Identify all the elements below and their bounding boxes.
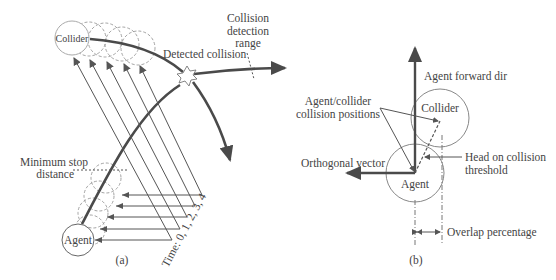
detection-range-marker	[247, 53, 254, 79]
collision-positions-label-1: Agent/collider	[305, 95, 372, 108]
panel-b-caption: (b)	[409, 254, 423, 267]
panel-a: Collider Agent	[20, 12, 285, 269]
agent-path	[82, 85, 180, 224]
agent-label-b: Agent	[401, 178, 430, 191]
agent-label: Agent	[64, 234, 93, 247]
detected-collision-label: Detected collision	[163, 48, 247, 60]
detection-range-label-3: range	[235, 37, 261, 50]
collider-label-b: Collider	[421, 102, 459, 114]
overlap-percentage-label: Overlap percentage	[447, 226, 537, 239]
minimum-stop-label-2: distance	[36, 168, 74, 180]
forward-dir-label: Agent forward dir	[424, 70, 507, 83]
detection-range-label-2: detection	[227, 25, 269, 37]
deflect-arrow-right	[194, 68, 285, 74]
collision-diagram: Collider Agent	[0, 0, 556, 280]
time-sample-lines	[74, 58, 202, 240]
panel-b: Collider Agent Agent forward dir Orthogo…	[296, 48, 546, 267]
collider-circle-b	[411, 89, 469, 147]
detection-range-label-1: Collision	[227, 12, 269, 24]
deflect-arrow-down	[193, 82, 230, 160]
collider-label: Collider	[56, 33, 89, 44]
panel-a-caption: (a)	[116, 254, 129, 267]
orthogonal-vector-label: Orthogonal vector	[301, 157, 385, 170]
collision-positions-label-2: collision positions	[296, 108, 381, 121]
head-on-label-2: threshold	[465, 164, 508, 176]
pointer-to-agent	[380, 108, 414, 171]
head-on-label-1: Head on collision	[465, 151, 546, 163]
